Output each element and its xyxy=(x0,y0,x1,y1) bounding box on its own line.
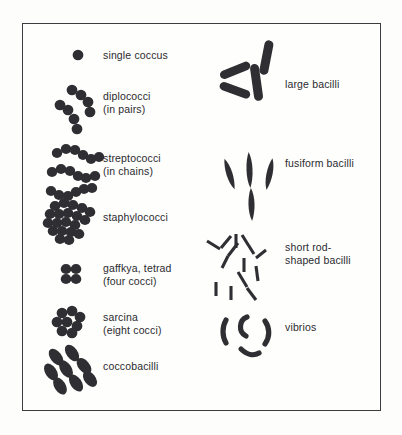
label-staphylococci: staphylococci xyxy=(103,211,168,224)
bacteria-illustrations-canvas xyxy=(0,0,402,435)
label-gaffkya-tetrad: gaffkya, tetrad (four cocci) xyxy=(103,262,172,287)
label-coccobacilli: coccobacilli xyxy=(103,360,159,373)
streptococci-illustration xyxy=(46,144,104,201)
figure-root: single coccus diplococci (in pairs) stre… xyxy=(0,0,402,435)
short-rod-shaped-bacilli-illustration xyxy=(207,234,266,300)
label-sarcina: sarcina (eight cocci) xyxy=(103,311,162,336)
label-short-rod-shaped-bacilli: short rod- shaped bacilli xyxy=(285,241,351,266)
staphylococci-illustration xyxy=(43,198,96,245)
diplococci-illustration xyxy=(55,85,96,134)
large-bacilli-illustration xyxy=(218,40,274,102)
label-streptococci: streptococci (in chains) xyxy=(103,152,161,177)
label-single-coccus: single coccus xyxy=(103,49,168,62)
vibrios-illustration xyxy=(223,317,269,355)
sarcina-illustration xyxy=(52,306,86,338)
gaffkya-tetrad-illustration xyxy=(61,264,82,284)
label-vibrios: vibrios xyxy=(285,321,316,334)
label-large-bacilli: large bacilli xyxy=(285,78,339,91)
single-coccus-illustration xyxy=(73,50,84,60)
coccobacilli-illustration xyxy=(41,342,100,397)
fusiform-bacilli-illustration xyxy=(223,152,277,221)
label-fusiform-bacilli: fusiform bacilli xyxy=(285,157,354,170)
label-diplococci: diplococci (in pairs) xyxy=(103,90,151,115)
